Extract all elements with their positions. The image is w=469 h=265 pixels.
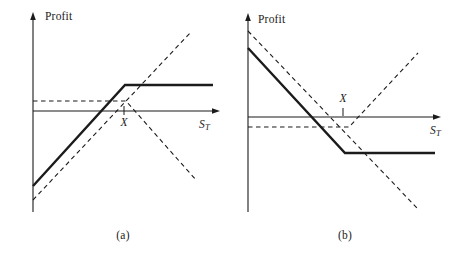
strike-label-b: X: [339, 93, 346, 105]
x-axis-label-a: ST: [199, 119, 210, 131]
option-profit-figure: Profit X ST (a) Profit X ST (b): [0, 0, 469, 265]
profit-line-a: [33, 85, 213, 186]
dashed-line-a-2: [33, 101, 196, 180]
x-axis-arrow-icon-b: [433, 114, 441, 120]
y-axis-arrow-icon-a: [30, 12, 36, 20]
figure-canvas: [0, 0, 469, 265]
x-axis-label-sub-a: T: [205, 122, 210, 132]
x-axis-label-b: ST: [430, 125, 441, 137]
x-axis-arrow-icon-a: [212, 108, 220, 114]
caption-label-a: (a): [116, 230, 129, 242]
y-axis-label-b: Profit: [258, 14, 285, 26]
y-axis-arrow-icon-b: [245, 13, 251, 21]
dashed-line-b-2: [248, 53, 418, 127]
dashed-line-a-1: [33, 33, 190, 200]
x-axis-label-sub-b: T: [436, 128, 441, 138]
strike-label-a: X: [120, 117, 127, 129]
y-axis-label-a: Profit: [45, 11, 72, 23]
caption-label-b: (b): [338, 230, 352, 242]
dashed-line-b-1: [248, 31, 417, 208]
